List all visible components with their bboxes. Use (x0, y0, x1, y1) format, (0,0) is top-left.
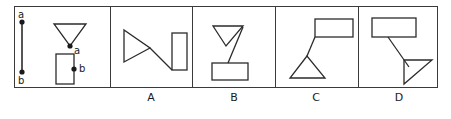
reference-rectangle (56, 54, 74, 84)
option-d-connector (388, 37, 409, 67)
option-a-shapes (124, 30, 187, 70)
option-c-connector (307, 37, 315, 56)
option-b-rectangle (212, 63, 248, 80)
option-c-shapes (290, 19, 353, 78)
reference-rectangle-point-b (71, 66, 76, 71)
option-d-shapes (372, 18, 432, 84)
option-a-rectangle (172, 33, 187, 70)
option-a-connector (150, 48, 172, 70)
label-triangle-a: a (74, 46, 80, 56)
option-label-a: A (131, 91, 171, 105)
label-segment-a: a (18, 10, 24, 20)
option-d-rectangle (372, 18, 416, 37)
reference-point-b (19, 69, 24, 74)
option-b-connector (228, 27, 243, 63)
option-b-shapes (212, 26, 248, 80)
reference-point-a (19, 19, 24, 24)
label-segment-b: b (18, 76, 24, 86)
option-label-b: B (214, 91, 254, 105)
label-rectangle-b: b (79, 64, 85, 74)
option-a-triangle (124, 30, 150, 62)
option-c-rectangle (315, 19, 353, 37)
option-label-c: C (296, 91, 336, 105)
option-c-triangle (290, 56, 325, 78)
reference-triangle (54, 24, 86, 46)
option-b-triangle (213, 26, 243, 46)
reference-triangle-point-a (67, 43, 72, 48)
geometry-question-figure: a b a b A B C D (0, 0, 451, 119)
option-label-d: D (379, 91, 419, 105)
option-d-triangle (404, 60, 432, 84)
